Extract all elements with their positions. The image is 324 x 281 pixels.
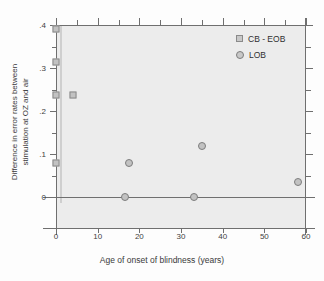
data-point-circle xyxy=(198,142,206,150)
circle-marker-icon xyxy=(236,51,244,59)
y-axis-tick-label: .3 xyxy=(30,64,46,73)
legend-item-label: LOB xyxy=(249,50,266,60)
y-axis-tick-major xyxy=(50,154,56,155)
y-axis-tick-major-right xyxy=(306,154,313,155)
data-point-circle xyxy=(125,159,133,167)
y-axis-title-line1: Difference in error rates between xyxy=(9,27,20,217)
zero-column-guide xyxy=(60,25,62,203)
zero-reference-line xyxy=(43,197,315,198)
y-axis-tick-major xyxy=(50,68,56,69)
axis-line-top xyxy=(56,25,306,26)
x-axis-tick-label: 50 xyxy=(260,232,269,241)
x-axis-tick-label: 60 xyxy=(302,232,311,241)
data-point-square xyxy=(53,58,60,65)
x-axis-tick-label: 30 xyxy=(177,232,186,241)
data-point-circle xyxy=(190,193,198,201)
y-axis-tick-minor xyxy=(52,133,56,134)
x-axis-tick-minor xyxy=(119,20,120,25)
data-point-square xyxy=(53,159,60,166)
y-axis-tick-major xyxy=(50,197,56,198)
x-axis-tick-top xyxy=(223,18,224,25)
y-axis-tick-major xyxy=(50,111,56,112)
y-axis-tick-minor xyxy=(52,176,56,177)
legend-item-cb-eob[interactable]: CB - EOB xyxy=(236,32,285,45)
scatter-plot-figure: 01020304050600.1.2.3.4 Age of onset of b… xyxy=(0,0,324,281)
y-axis-tick-minor xyxy=(52,47,56,48)
x-axis-tick-top xyxy=(139,18,140,25)
y-axis-tick-label: .1 xyxy=(30,150,46,159)
data-point-square xyxy=(53,26,60,33)
y-axis-tick-major-right xyxy=(306,197,313,198)
x-axis-tick-top xyxy=(98,18,99,25)
x-axis-tick-minor xyxy=(244,20,245,25)
data-point-circle xyxy=(294,178,302,186)
x-axis-tick-top xyxy=(264,18,265,25)
square-marker-icon xyxy=(236,35,243,42)
data-point-circle xyxy=(121,193,129,201)
y-axis-tick-label: .2 xyxy=(30,107,46,116)
x-axis-tick-minor xyxy=(202,20,203,25)
x-axis-tick-label: 20 xyxy=(135,232,144,241)
data-point-square xyxy=(53,91,60,98)
legend-item-label: CB - EOB xyxy=(248,34,285,44)
x-axis-tick-top xyxy=(181,18,182,25)
x-axis-tick-minor xyxy=(285,20,286,25)
y-axis-tick-minor-right xyxy=(306,47,311,48)
y-axis-tick-minor-right xyxy=(306,90,311,91)
y-axis-tick-major-right xyxy=(306,111,313,112)
y-axis-title-line2: stimulation at OZ and air xyxy=(20,27,31,217)
x-axis-tick-minor xyxy=(77,20,78,25)
y-axis-tick-major-right xyxy=(306,25,313,26)
legend-item-lob[interactable]: LOB xyxy=(236,48,285,61)
y-axis-tick-label: 0 xyxy=(30,193,46,202)
x-axis-tick-top xyxy=(306,18,307,25)
x-axis-tick-top xyxy=(56,18,57,25)
x-axis-tick-minor xyxy=(160,20,161,25)
axis-line-left xyxy=(56,18,57,235)
x-axis-tick-label: 0 xyxy=(54,232,58,241)
x-axis-title: Age of onset of blindness (years) xyxy=(0,255,324,265)
axis-line-bottom xyxy=(43,228,315,229)
x-axis-tick-label: 10 xyxy=(93,232,102,241)
y-axis-tick-major-right xyxy=(306,68,313,69)
y-axis-title: Difference in error rates between stimul… xyxy=(9,27,31,217)
axis-line-right xyxy=(305,18,306,235)
data-point-square xyxy=(69,91,76,98)
y-axis-tick-minor-right xyxy=(306,176,311,177)
x-axis-tick-label: 40 xyxy=(218,232,227,241)
legend: CB - EOBLOB xyxy=(236,32,285,64)
y-axis-tick-label: .4 xyxy=(30,21,46,30)
y-axis-tick-minor-right xyxy=(306,133,311,134)
